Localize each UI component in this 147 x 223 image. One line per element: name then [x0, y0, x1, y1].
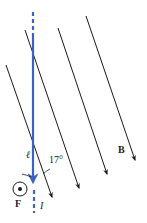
field-line-3 [58, 28, 107, 174]
angle-indicator [22, 169, 50, 177]
force-out-of-page-icon [13, 182, 27, 196]
angle-tick-left [22, 174, 31, 177]
angle-tick-right [43, 169, 50, 174]
field-line-1 [6, 65, 52, 197]
force-label: F [15, 198, 21, 209]
magnetic-field-lines [6, 16, 135, 197]
magnetic-force-diagram: ℓ 17° B F I [0, 0, 147, 223]
current-wire [33, 12, 34, 213]
field-line-4 [86, 16, 135, 160]
field-label: B [118, 144, 125, 155]
length-label: ℓ [26, 149, 30, 160]
current-label: I [39, 200, 44, 211]
angle-label: 17° [49, 154, 63, 165]
